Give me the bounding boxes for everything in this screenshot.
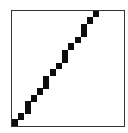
step-block [12,119,18,126]
step-block [93,11,99,17]
step-block [18,113,24,120]
step-block [62,50,68,63]
step-block [31,95,37,102]
step-block [56,63,62,69]
step-block [50,69,56,76]
step-block [25,101,31,114]
step-block [37,88,43,95]
step-block [43,76,49,89]
step-block [75,37,81,43]
step-block [68,43,74,50]
step-block [81,24,87,37]
step-block [87,17,93,24]
